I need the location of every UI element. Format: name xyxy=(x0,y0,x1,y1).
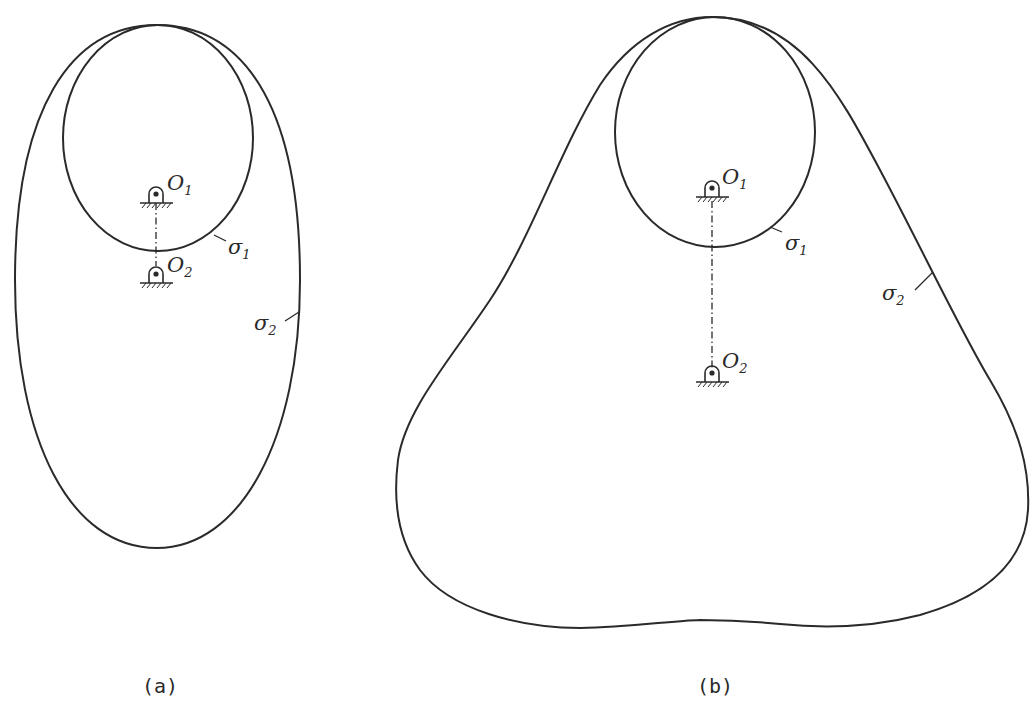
figure-b: O1 O2 σ1 σ2 (b) xyxy=(396,17,1028,698)
label-sigma1-a: σ1 xyxy=(228,235,251,262)
leader-sigma2-b xyxy=(915,272,933,290)
figure-a: O1 O2 σ1 σ2 (a) xyxy=(15,25,300,698)
caption-b: (b) xyxy=(697,674,733,698)
leader-sigma1-a xyxy=(214,235,226,241)
label-o2-b: O2 xyxy=(722,349,748,376)
label-sigma1-b: σ1 xyxy=(785,231,808,258)
label-o1-b: O1 xyxy=(722,165,748,192)
curve-sigma1-b xyxy=(615,17,815,247)
label-sigma2-a: σ2 xyxy=(254,311,277,338)
curve-sigma1-a xyxy=(63,25,253,251)
diagram-canvas: O1 O2 σ1 σ2 (a) xyxy=(0,0,1035,710)
curve-sigma2-a xyxy=(15,25,300,548)
label-sigma2-b: σ2 xyxy=(882,281,905,308)
caption-a: (a) xyxy=(142,674,178,698)
label-o2-a: O2 xyxy=(167,253,193,280)
label-o1-a: O1 xyxy=(167,171,193,198)
leader-sigma2-a xyxy=(285,312,299,321)
leader-sigma1-b xyxy=(770,227,782,232)
